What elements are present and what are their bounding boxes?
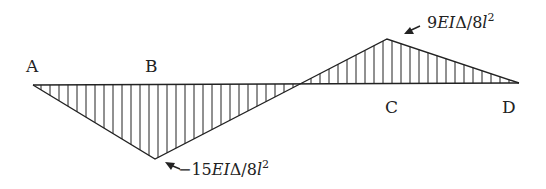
negative-peak-annotation: −15EIΔ/8l2 (178, 158, 269, 179)
point-label-b: B (145, 56, 158, 76)
point-label-d: D (502, 97, 516, 117)
bending-moment-diagram: A B C D −15EIΔ/8l2 9EIΔ/8l2 (0, 0, 546, 189)
point-label-a: A (25, 56, 39, 76)
diagram-svg: A B C D −15EIΔ/8l2 9EIΔ/8l2 (0, 0, 546, 189)
positive-peak-annotation: 9EIΔ/8l2 (427, 11, 494, 32)
arrow-icon-positive (404, 26, 420, 34)
point-label-c: C (385, 97, 398, 117)
